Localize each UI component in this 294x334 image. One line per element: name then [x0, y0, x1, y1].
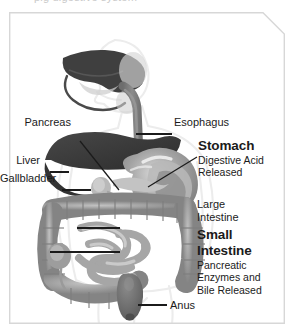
label-pancreas: Pancreas	[0, 116, 71, 129]
label-small-intestine-detail-3: Bile Released	[197, 284, 262, 296]
label-gallbladder: Gallbladder	[0, 172, 52, 185]
label-small-intestine-1: Small	[197, 227, 262, 243]
label-large-intestine-1: Large	[197, 198, 239, 211]
label-liver: Liver	[0, 154, 40, 167]
label-stomach-detail-1: Digestive Acid	[198, 154, 264, 166]
label-stomach-group: Stomach Digestive Acid Released	[198, 138, 264, 179]
cutoff-caption-text: pig digestive system	[34, 0, 137, 3]
label-small-intestine-detail-2: Enzymes and	[197, 271, 262, 283]
label-esophagus: Esophagus	[174, 116, 229, 129]
label-large-intestine-group: Large Intestine	[197, 198, 239, 224]
label-large-intestine-2: Intestine	[197, 211, 239, 224]
label-small-intestine-2: Intestine	[197, 243, 262, 259]
label-small-intestine-detail-1: Pancreatic	[197, 259, 262, 271]
diagram-canvas: pig digestive system	[0, 0, 294, 334]
label-stomach-detail-2: Released	[198, 166, 264, 178]
cutoff-caption-strip: pig digestive system	[0, 0, 294, 9]
label-small-intestine-group: Small Intestine Pancreatic Enzymes and B…	[197, 227, 262, 296]
label-anus: Anus	[170, 299, 195, 312]
label-stomach: Stomach	[198, 138, 264, 154]
